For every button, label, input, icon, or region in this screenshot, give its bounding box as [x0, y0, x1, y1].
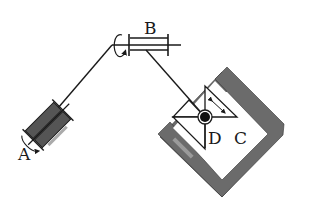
label-a: A	[18, 146, 30, 163]
label-c: C	[234, 130, 247, 147]
rotation-arrow-icon	[114, 35, 125, 57]
label-b: B	[144, 20, 157, 37]
label-d: D	[208, 130, 222, 147]
